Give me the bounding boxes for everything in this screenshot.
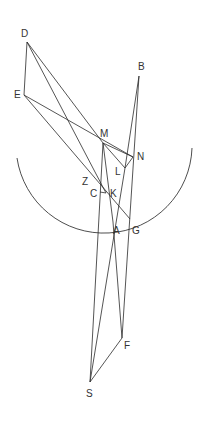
point-label-K: K	[110, 188, 117, 199]
point-label-L: L	[115, 166, 121, 177]
segment-AF	[113, 222, 122, 338]
point-label-G: G	[132, 225, 140, 236]
point-label-B: B	[138, 61, 145, 72]
segment-DK	[27, 42, 106, 193]
point-label-N: N	[137, 151, 144, 162]
point-label-A: A	[113, 225, 120, 236]
segment-EN	[24, 95, 133, 157]
line-segments	[24, 42, 139, 382]
segment-DM	[27, 42, 103, 143]
segment-SF	[90, 338, 122, 382]
segment-CK	[100, 192, 106, 193]
point-label-M: M	[100, 128, 108, 139]
segment-EG	[24, 95, 130, 219]
segment-DE	[24, 42, 27, 95]
point-label-Z: Z	[82, 176, 88, 187]
point-label-F: F	[124, 340, 130, 351]
segment-LS	[90, 168, 125, 382]
point-label-D: D	[21, 28, 28, 39]
segment-ML	[103, 143, 125, 168]
point-label-S: S	[86, 388, 93, 399]
point-label-C: C	[90, 188, 97, 199]
segment-MA	[103, 143, 113, 222]
segment-BF	[122, 76, 139, 338]
segment-MS	[90, 143, 103, 382]
geometry-diagram: DEBMNLZCKAGFS	[0, 0, 198, 421]
point-label-E: E	[14, 89, 21, 100]
